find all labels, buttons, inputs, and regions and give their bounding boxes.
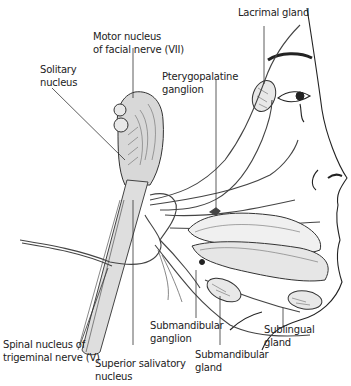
label-superior-salivatory-nucleus: Superior salivatory nucleus [95,357,186,383]
submandibular-ganglion [200,260,205,265]
label-sublingual-gland: Sublingual gland [264,323,315,349]
submandibular-gland [203,273,244,306]
label-spinal-nucleus-trigeminal: Spinal nucleus of trigeminal nerve (V) [3,338,100,364]
label-solitary-nucleus: Solitary nucleus [40,63,77,89]
brainstem [114,92,163,185]
label-lacrimal-gland: Lacrimal gland [238,6,309,19]
label-submandibular-gland: Submandibular gland [195,348,268,374]
label-pterygopalatine-ganglion: Pterygopalatine ganglion [162,70,238,96]
label-submandibular-ganglion: Submandibular ganglion [150,319,223,345]
tongue [188,213,328,281]
label-motor-nucleus-facial-nerve: Motor nucleus of facial nerve (VII) [93,30,184,56]
sublingual-gland [287,289,323,312]
spinal-trigeminal-tract [78,180,148,355]
